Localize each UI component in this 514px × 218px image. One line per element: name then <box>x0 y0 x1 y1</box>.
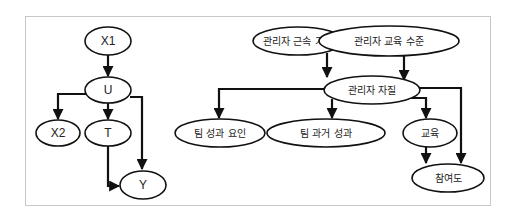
node-team-past-performance: 팀 과거 성과 <box>267 119 385 147</box>
node-u: U <box>85 77 131 103</box>
node-label: 교육 <box>421 128 439 139</box>
node-label: 팀 과거 성과 <box>300 128 351 139</box>
node-manager-education-level: 관리자 교육 수준 <box>319 26 459 56</box>
node-label: 관리자 교육 수준 <box>354 36 423 47</box>
edge-u-y <box>130 97 142 169</box>
node-label: X2 <box>51 126 66 140</box>
edge-u-x2 <box>58 94 86 119</box>
edge-t-y <box>108 146 119 186</box>
node-label: 팀 성과 요인 <box>194 128 245 139</box>
node-team-performance-factors: 팀 성과 요인 <box>175 119 265 147</box>
node-label: T <box>104 126 112 140</box>
node-label: 관리자 자질 <box>348 85 396 96</box>
node-manager-quality: 관리자 자질 <box>324 76 420 104</box>
causal-diagrams: X1 U X2 T Y 관리자 근속 기간 관리자 교육 수준 관리자 자질 <box>0 0 514 218</box>
node-training: 교육 <box>403 119 457 147</box>
node-x1: X1 <box>85 27 131 55</box>
node-label: 참여도 <box>435 173 462 184</box>
node-engagement: 참여도 <box>412 164 484 192</box>
node-label: X1 <box>101 34 116 48</box>
node-y: Y <box>120 171 166 199</box>
node-x2: X2 <box>36 120 80 146</box>
edge-quality-teamfactors <box>219 89 324 118</box>
node-t: T <box>85 120 131 146</box>
node-label: U <box>104 83 113 97</box>
node-label: Y <box>139 178 147 192</box>
